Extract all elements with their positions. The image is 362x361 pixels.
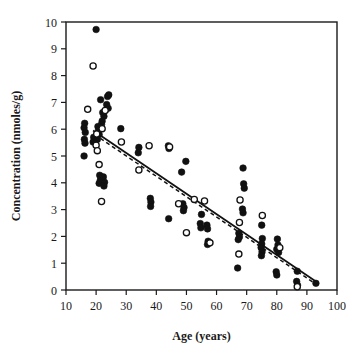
data-point-open-circle <box>259 212 265 218</box>
x-tick-label: 70 <box>241 299 253 313</box>
data-point-filled-circle <box>235 236 242 243</box>
y-tick-label: 4 <box>51 176 57 190</box>
y-tick-label: 9 <box>51 42 57 56</box>
data-point-open-circle <box>207 240 213 246</box>
y-axis-title: Concentration (nmoles/g) <box>9 91 23 221</box>
y-tick-label: 2 <box>51 230 57 244</box>
y-tick-label: 3 <box>51 203 57 217</box>
data-point-filled-circle <box>105 92 112 99</box>
data-point-open-circle <box>98 198 104 204</box>
y-tick-label: 10 <box>45 16 57 30</box>
data-point-filled-circle <box>147 203 154 210</box>
data-point-filled-circle <box>258 222 265 229</box>
data-point-filled-circle <box>294 268 301 275</box>
data-point-open-circle <box>85 106 91 112</box>
data-point-open-circle <box>90 63 96 69</box>
y-tick-label: 0 <box>51 284 57 298</box>
data-point-open-circle <box>94 148 100 154</box>
data-point-filled-circle <box>183 158 190 165</box>
data-point-open-circle <box>99 126 105 132</box>
y-tick-label: 8 <box>51 69 57 83</box>
x-tick-label: 60 <box>211 299 223 313</box>
data-point-filled-circle <box>82 129 89 136</box>
data-point-open-circle <box>277 245 283 251</box>
x-tick-label: 20 <box>90 299 102 313</box>
data-point-filled-circle <box>198 211 205 218</box>
x-tick-label: 30 <box>120 299 132 313</box>
data-point-filled-circle <box>241 185 248 192</box>
data-point-open-circle <box>183 230 189 236</box>
data-point-filled-circle <box>135 149 142 156</box>
scatter-chart: 102030405060708090100012345678910Age (ye… <box>0 0 362 361</box>
data-point-open-circle <box>236 251 242 257</box>
data-point-open-circle <box>102 107 108 113</box>
data-point-filled-circle <box>204 226 211 233</box>
data-point-open-circle <box>166 144 172 150</box>
data-point-open-circle <box>118 139 124 145</box>
data-point-filled-circle <box>97 96 104 103</box>
data-point-open-circle <box>294 284 300 290</box>
data-point-filled-circle <box>240 165 247 172</box>
x-tick-label: 80 <box>271 299 283 313</box>
x-tick-label: 50 <box>180 299 192 313</box>
solid-regression-line <box>93 131 317 283</box>
y-tick-label: 5 <box>51 150 57 164</box>
data-point-open-circle <box>146 143 152 149</box>
x-tick-label: 40 <box>150 299 162 313</box>
data-point-filled-circle <box>81 153 88 160</box>
dashed-regression-line <box>95 135 318 286</box>
x-axis-title: Age (years) <box>172 329 230 343</box>
data-point-filled-circle <box>234 265 241 272</box>
data-point-filled-circle <box>273 272 280 279</box>
data-point-filled-circle <box>82 140 89 147</box>
data-point-filled-circle <box>313 280 320 287</box>
data-point-filled-circle <box>101 183 108 190</box>
data-point-filled-circle <box>93 26 100 33</box>
plot-frame <box>66 22 337 290</box>
x-tick-label: 100 <box>328 299 346 313</box>
data-point-open-circle <box>201 198 207 204</box>
y-tick-label: 7 <box>51 96 57 110</box>
data-point-filled-circle <box>165 215 172 222</box>
data-point-open-circle <box>236 219 242 225</box>
data-point-filled-circle <box>118 125 125 132</box>
data-point-filled-circle <box>198 225 205 232</box>
x-tick-label: 90 <box>301 299 313 313</box>
data-point-filled-circle <box>180 207 187 214</box>
x-tick-label: 10 <box>60 299 72 313</box>
y-tick-label: 1 <box>51 257 57 271</box>
data-point-filled-circle <box>274 236 281 243</box>
y-tick-label: 6 <box>51 123 57 137</box>
data-point-open-circle <box>136 167 142 173</box>
data-point-open-circle <box>94 131 100 137</box>
data-point-filled-circle <box>258 252 265 259</box>
data-point-filled-circle <box>240 210 247 217</box>
data-point-open-circle <box>237 197 243 203</box>
data-point-open-circle <box>176 201 182 207</box>
data-point-filled-circle <box>178 169 185 176</box>
data-point-open-circle <box>96 161 102 167</box>
data-point-open-circle <box>191 196 197 202</box>
